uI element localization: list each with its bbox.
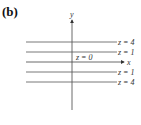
y-axis-label: y bbox=[69, 10, 74, 19]
level-label-z0: z = 0 bbox=[75, 53, 93, 62]
x-axis-label: x bbox=[126, 58, 131, 67]
level-label-z1-lower: z = 1 bbox=[117, 68, 135, 77]
level-label-z1-upper: z = 1 bbox=[117, 48, 135, 57]
level-label-z4-top: z = 4 bbox=[117, 38, 135, 47]
level-curves-diagram: y z = 4 z = 1 z = 0 x z = 1 z = 4 bbox=[0, 0, 141, 125]
level-label-z4-bottom: z = 4 bbox=[117, 78, 135, 87]
